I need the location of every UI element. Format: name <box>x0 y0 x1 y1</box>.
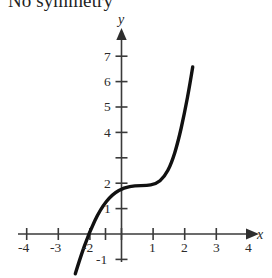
x-tick-label-1: 1 <box>149 241 156 255</box>
y-tick-label-4: 4 <box>104 126 111 140</box>
x-tick-label--3: -3 <box>50 241 61 255</box>
y-tick-label--1: -1 <box>96 253 107 267</box>
y-tick-label-7: 7 <box>104 50 111 64</box>
graph-canvas <box>0 0 272 278</box>
y-tick-label-5: 5 <box>104 100 111 114</box>
y-tick-label-2: 2 <box>104 177 111 191</box>
function-curve-ref <box>74 46 216 274</box>
y-tick-label-6: 6 <box>104 75 111 89</box>
x-axis-label: x <box>257 228 263 242</box>
axis-group <box>18 28 259 262</box>
y-axis-label: y <box>118 13 124 27</box>
x-tick-label--4: -4 <box>18 241 29 255</box>
x-tick-label-4: 4 <box>245 241 252 255</box>
x-tick-label-2: 2 <box>181 241 188 255</box>
y-tick-label-1: 1 <box>104 202 111 216</box>
y-axis-arrow-icon <box>116 28 126 40</box>
x-tick-label-3: 3 <box>213 241 220 255</box>
x-tick-label--2: -2 <box>82 241 93 255</box>
figure-panel: No symmetry <box>0 0 272 278</box>
